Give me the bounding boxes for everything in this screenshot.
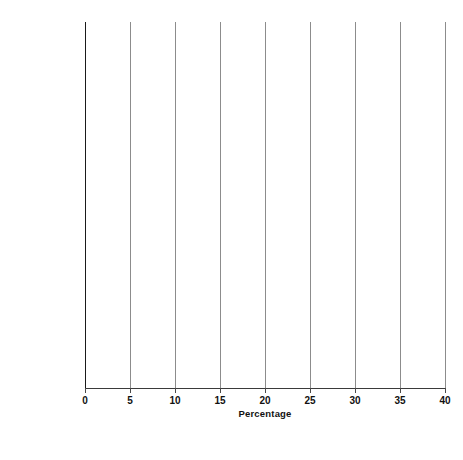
x-tick-label-20: 20 — [250, 395, 280, 406]
tick-mark-35 — [400, 388, 401, 393]
tick-mark-20 — [265, 388, 266, 393]
gridline-40 — [445, 22, 446, 388]
x-tick-label-40: 40 — [430, 395, 460, 406]
x-tick-label-30: 30 — [340, 395, 370, 406]
x-tick-label-10: 10 — [160, 395, 190, 406]
bar-chart: 0510152025303540 Percentage — [0, 0, 463, 460]
plot-area — [85, 22, 445, 388]
gridline-10 — [175, 22, 176, 388]
gridline-30 — [355, 22, 356, 388]
x-tick-label-15: 15 — [205, 395, 235, 406]
x-axis-title: Percentage — [85, 408, 445, 419]
gridline-25 — [310, 22, 311, 388]
gridline-35 — [400, 22, 401, 388]
x-tick-label-25: 25 — [295, 395, 325, 406]
tick-mark-40 — [445, 388, 446, 393]
tick-mark-15 — [220, 388, 221, 393]
category-axis — [0, 22, 82, 388]
gridline-0 — [85, 22, 86, 388]
tick-mark-25 — [310, 388, 311, 393]
x-tick-label-35: 35 — [385, 395, 415, 406]
tick-mark-0 — [85, 388, 86, 393]
gridline-5 — [130, 22, 131, 388]
x-tick-label-0: 0 — [70, 395, 100, 406]
tick-mark-10 — [175, 388, 176, 393]
gridline-15 — [220, 22, 221, 388]
tick-mark-5 — [130, 388, 131, 393]
chart-legend — [0, 428, 463, 450]
tick-mark-30 — [355, 388, 356, 393]
x-tick-label-5: 5 — [115, 395, 145, 406]
gridline-20 — [265, 22, 266, 388]
